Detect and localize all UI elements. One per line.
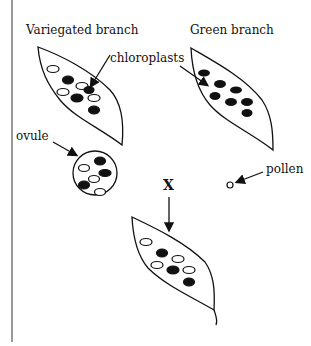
offspring-chloroplasts bbox=[140, 239, 195, 287]
pollen-arrow bbox=[237, 172, 263, 182]
cross-label: X bbox=[163, 178, 174, 192]
green-chloroplasts bbox=[198, 70, 253, 118]
ovule-chloroplasts bbox=[79, 157, 112, 196]
variegated-chloroplasts bbox=[47, 66, 100, 115]
ovule-arrow bbox=[53, 142, 76, 155]
chloroplasts-label: chloroplasts bbox=[110, 52, 184, 64]
ovule-label: ovule bbox=[16, 130, 49, 142]
pollen-grain bbox=[227, 182, 233, 188]
green-branch-label: Green branch bbox=[190, 24, 274, 36]
variegated-branch-label: Variegated branch bbox=[26, 24, 138, 36]
pollen-label: pollen bbox=[266, 163, 303, 175]
